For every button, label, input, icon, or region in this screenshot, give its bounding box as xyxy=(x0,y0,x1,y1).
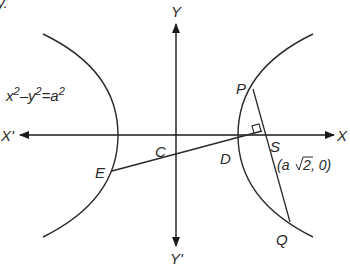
axis-label-y-pos: Y xyxy=(171,3,182,20)
focal-chord-pq xyxy=(253,89,290,222)
point-label-c: C xyxy=(155,143,166,160)
focus-coordinate-label: (a 2 , 0) xyxy=(277,157,331,173)
point-label-s: S xyxy=(270,138,280,155)
focus-coord-sqrt-arg: 2 xyxy=(302,157,311,173)
cropped-text-fragment: y. xyxy=(0,0,8,11)
axis-label-x-pos: X xyxy=(336,127,348,144)
hyperbola-diagram: y. x2–y2=a2 X' X Y Y' P Q xyxy=(0,0,350,269)
focus-coord-close: , 0) xyxy=(311,157,331,173)
equation-label: x2–y2=a2 xyxy=(5,85,65,104)
axis-label-y-neg: Y' xyxy=(170,250,184,267)
point-label-d: D xyxy=(220,150,231,167)
focus-coord-open: (a xyxy=(277,157,290,173)
axis-label-x-neg: X' xyxy=(0,127,15,144)
point-label-p: P xyxy=(236,80,246,97)
point-label-q: Q xyxy=(276,231,288,248)
point-label-e: E xyxy=(95,164,106,181)
